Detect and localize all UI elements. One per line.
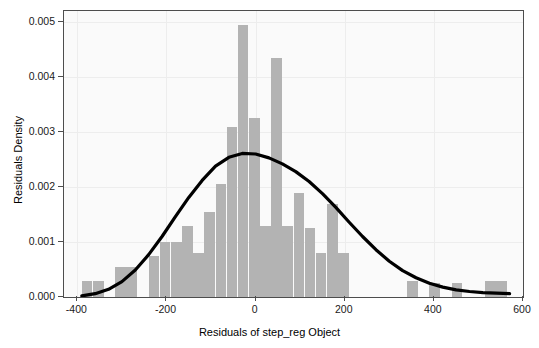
gridline-vertical xyxy=(523,11,524,297)
x-axis-tick-label: -200 xyxy=(155,303,176,315)
y-axis-tick xyxy=(58,21,63,22)
residuals-density-chart: -400-20002004006000.0000.0010.0020.0030.… xyxy=(0,0,539,348)
x-axis-tick-label: 0 xyxy=(252,303,258,315)
x-axis-tick xyxy=(165,296,166,301)
y-axis-tick-label: 0.002 xyxy=(1,180,55,192)
y-axis-tick xyxy=(58,296,63,297)
y-axis-label: Residuals Density xyxy=(12,90,24,230)
y-axis-tick-label: 0.003 xyxy=(1,125,55,137)
y-axis-tick xyxy=(58,76,63,77)
y-axis-tick-label: 0.001 xyxy=(1,235,55,247)
gridline-horizontal xyxy=(64,297,523,298)
x-axis-tick-label: 600 xyxy=(513,303,531,315)
x-axis-tick xyxy=(76,296,77,301)
y-axis-tick-label: 0.000 xyxy=(1,290,55,302)
x-axis-tick-label: 200 xyxy=(335,303,353,315)
x-axis-tick-label: -400 xyxy=(66,303,87,315)
x-axis-tick xyxy=(522,296,523,301)
y-axis-tick-label: 0.004 xyxy=(1,70,55,82)
y-axis-tick xyxy=(58,131,63,132)
density-curve xyxy=(64,11,523,297)
x-axis-tick xyxy=(255,296,256,301)
plot-panel xyxy=(63,10,524,298)
x-axis-tick xyxy=(433,296,434,301)
x-axis-tick-label: 400 xyxy=(424,303,442,315)
x-axis-tick xyxy=(344,296,345,301)
y-axis-tick xyxy=(58,241,63,242)
x-axis-label: Residuals of step_reg Object xyxy=(0,326,539,338)
y-axis-tick-label: 0.005 xyxy=(1,15,55,27)
y-axis-tick xyxy=(58,186,63,187)
